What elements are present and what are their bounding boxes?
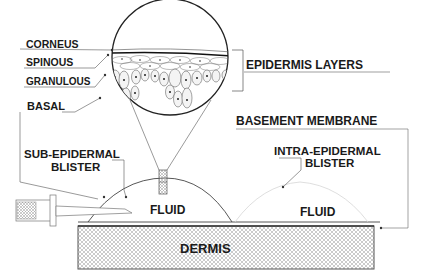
layer-leader-lines [20, 49, 112, 199]
label-corneus: CORNEUS [26, 38, 79, 50]
label-granulous: GRANULOUS [26, 76, 91, 87]
label-epidermis-layers: EPIDERMIS LAYERS [246, 58, 363, 72]
label-intra-epidermal: INTRA-EPIDERMAL [274, 145, 381, 157]
label-sub-epidermal-blister: BLISTER [51, 161, 101, 173]
label-sub-epidermal: SUB-EPIDERMAL [24, 148, 120, 160]
label-dermis: DERMIS [180, 241, 231, 256]
epidermis-bracket [232, 50, 243, 91]
label-intra-epidermal-blister: BLISTER [305, 157, 355, 169]
label-basal: BASAL [27, 100, 65, 112]
label-basement-membrane: BASEMENT MEMBRANE [236, 114, 377, 128]
biopsy-sample-icon [159, 170, 167, 194]
skin-blister-diagram: CORNEUS SPINOUS GRANULOUS BASAL EPIDERMI… [0, 0, 422, 280]
syringe-icon [16, 195, 132, 226]
label-spinous: SPINOUS [26, 56, 73, 68]
label-fluid-left: FLUID [150, 203, 186, 217]
magnified-epidermis-circle [110, 0, 233, 115]
label-fluid-right: FLUID [300, 205, 336, 219]
diagram-canvas: CORNEUS SPINOUS GRANULOUS BASAL EPIDERMI… [0, 0, 422, 280]
